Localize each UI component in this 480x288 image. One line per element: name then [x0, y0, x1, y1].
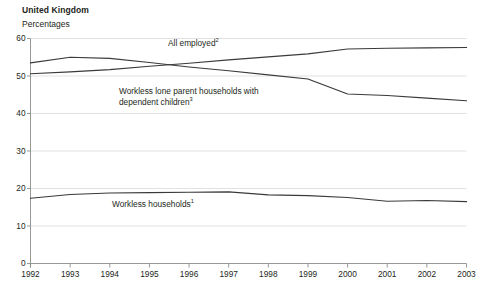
series-label-lone-parent-line2: dependent children — [119, 97, 190, 107]
y-axis-tick-label: 50 — [2, 71, 26, 81]
y-axis-tick-label: 40 — [2, 108, 26, 118]
x-axis-tick-label: 2000 — [328, 269, 368, 279]
series-label-lone-parent: Workless lone parent households with dep… — [119, 86, 259, 107]
y-axis-tick-label: 20 — [2, 183, 26, 193]
series-line — [31, 192, 467, 202]
series-label-workless-households: Workless households1 — [112, 199, 194, 210]
x-axis-tick-label: 1994 — [90, 269, 130, 279]
y-axis-tick-label: 30 — [2, 146, 26, 156]
x-axis-tick-label: 1997 — [209, 269, 249, 279]
x-axis-tick-label: 1999 — [288, 269, 328, 279]
series-label-all-employed-text: All employed — [168, 38, 216, 48]
y-axis-tick-label: 0 — [2, 258, 26, 268]
series-line — [31, 48, 467, 74]
series-label-lone-parent-line2-wrap: dependent children3 — [119, 97, 259, 108]
y-axis-tick-label: 10 — [2, 221, 26, 231]
x-axis-tick-label: 2001 — [367, 269, 407, 279]
series-label-workless-households-text: Workless households — [112, 199, 191, 209]
x-axis-tick-label: 1992 — [11, 269, 51, 279]
y-axis-tick-label: 60 — [2, 33, 26, 43]
x-axis-tick-label: 2003 — [447, 269, 480, 279]
series-label-workless-households-note: 1 — [191, 198, 194, 204]
series-label-all-employed: All employed2 — [168, 38, 219, 49]
series-label-all-employed-note: 2 — [216, 37, 219, 43]
x-axis-tick-label: 1998 — [248, 269, 288, 279]
x-axis-tick-label: 1996 — [169, 269, 209, 279]
x-axis-tick-label: 1993 — [50, 269, 90, 279]
series-lines — [31, 48, 467, 202]
series-label-lone-parent-note: 3 — [190, 96, 193, 102]
x-axis-tick-label: 2002 — [407, 269, 447, 279]
x-axis-tick-label: 1995 — [129, 269, 169, 279]
